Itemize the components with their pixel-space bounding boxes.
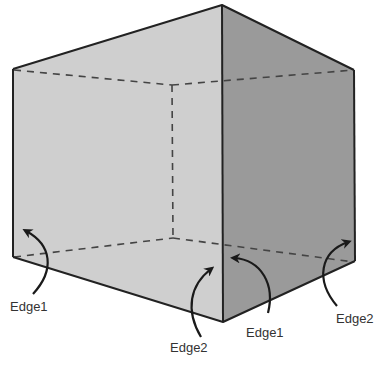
label-front-edge2: Edge2 — [170, 340, 208, 355]
box-diagram: Edge1 Edge2 Edge1 Edge2 — [0, 0, 380, 372]
right-face — [222, 5, 355, 322]
label-front-edge1: Edge1 — [246, 325, 284, 340]
label-right-edge2: Edge2 — [336, 311, 374, 326]
label-left-edge1: Edge1 — [10, 299, 48, 314]
